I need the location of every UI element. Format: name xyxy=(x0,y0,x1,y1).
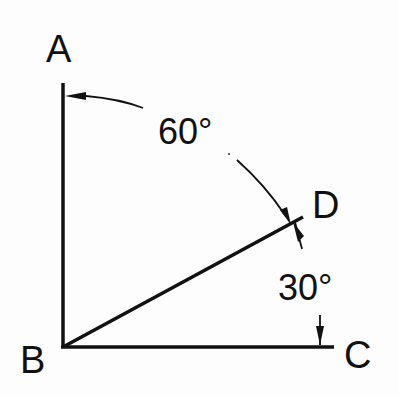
angle-label-30: 30° xyxy=(278,267,332,308)
arrowhead-60-d-icon xyxy=(280,207,291,225)
angle-label-60: 60° xyxy=(158,111,212,152)
arrowhead-30-d-icon xyxy=(293,222,304,242)
point-label-b: B xyxy=(20,339,45,381)
angle-diagram: A B C D 60° 30° xyxy=(0,0,399,396)
arc-60-upper xyxy=(86,96,143,108)
point-label-c: C xyxy=(344,334,371,376)
point-label-d: D xyxy=(312,184,339,226)
arc-60-lower xyxy=(237,160,285,215)
arrowhead-60-a-icon xyxy=(65,92,86,100)
diagram-svg: A B C D 60° 30° xyxy=(0,0,399,396)
arrowhead-30-c-icon xyxy=(316,326,324,345)
point-label-a: A xyxy=(46,28,72,70)
arc-dot xyxy=(228,153,230,155)
segment-bd xyxy=(63,217,303,347)
